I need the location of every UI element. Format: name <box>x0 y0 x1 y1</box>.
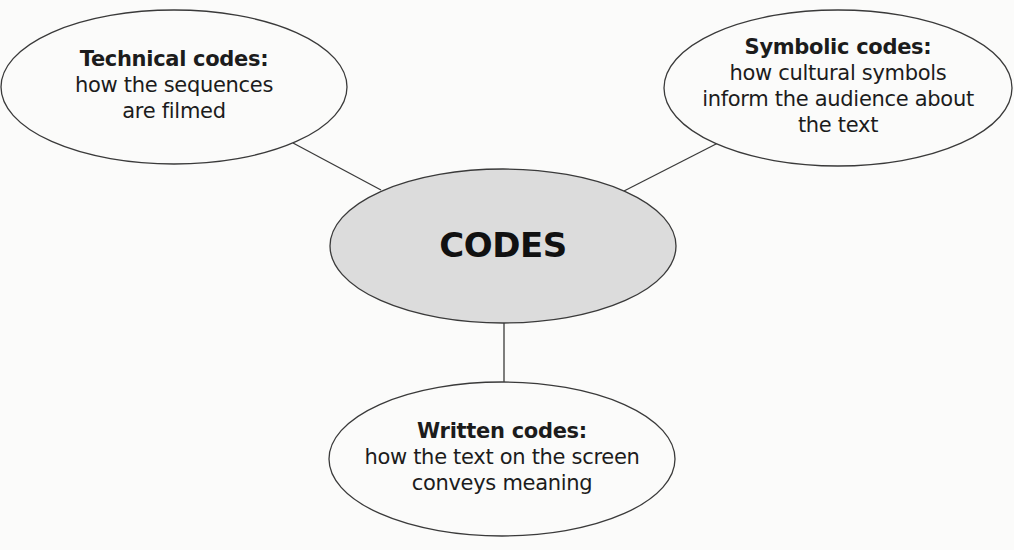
node-symbolic-title: Symbolic codes: <box>670 34 1006 60</box>
node-written-desc-line: how the text on the screen <box>332 444 672 470</box>
connector-technical <box>293 143 381 190</box>
connector-symbolic <box>624 143 718 191</box>
node-technical: Technical codes: how the sequences are f… <box>20 46 328 124</box>
node-symbolic-desc-line: the text <box>670 112 1006 138</box>
node-written-title: Written codes: <box>332 418 672 444</box>
node-technical-desc-line: how the sequences <box>20 72 328 98</box>
center-node-label: CODES <box>330 222 676 268</box>
node-symbolic-desc-line: how cultural symbols <box>670 60 1006 86</box>
node-technical-title: Technical codes: <box>20 46 328 72</box>
node-written: Written codes: how the text on the scree… <box>332 418 672 496</box>
node-written-desc-line: conveys meaning <box>332 470 672 496</box>
node-technical-desc-line: are filmed <box>20 98 328 124</box>
node-symbolic-desc-line: inform the audience about <box>670 86 1006 112</box>
node-symbolic: Symbolic codes: how cultural symbols inf… <box>670 34 1006 138</box>
